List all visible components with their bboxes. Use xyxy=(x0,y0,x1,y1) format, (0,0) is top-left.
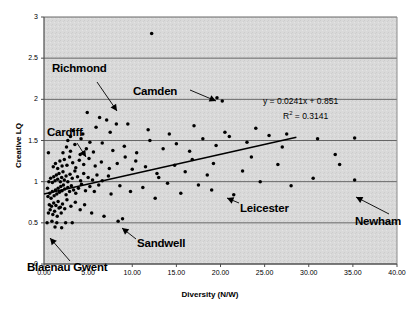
data-point xyxy=(65,145,69,149)
data-point xyxy=(168,132,172,136)
data-point xyxy=(63,207,67,211)
data-point xyxy=(95,173,99,177)
data-point xyxy=(65,163,69,167)
annotation-label-sandwell: Sandwell xyxy=(137,237,185,249)
data-point xyxy=(83,203,87,207)
data-point xyxy=(48,208,52,212)
x-tick-label-25.00: 25.00 xyxy=(249,269,281,276)
x-tick-label-20.00: 20.00 xyxy=(205,269,237,276)
data-point xyxy=(215,96,219,100)
data-point xyxy=(62,183,66,187)
data-point xyxy=(232,193,236,197)
y-tick-label-1: 1 xyxy=(0,178,38,185)
data-point xyxy=(70,221,74,225)
data-point xyxy=(78,159,82,163)
data-point xyxy=(56,200,60,204)
data-point xyxy=(100,160,104,164)
data-point xyxy=(70,177,74,181)
data-point xyxy=(201,137,205,141)
data-point xyxy=(316,137,320,141)
data-point xyxy=(135,151,139,155)
data-point xyxy=(49,177,53,181)
data-point xyxy=(61,202,65,206)
data-point xyxy=(82,172,86,176)
annotation-label-richmond: Richmond xyxy=(52,62,107,74)
data-point xyxy=(245,140,249,144)
data-point xyxy=(206,173,210,177)
data-point xyxy=(166,182,170,186)
data-point xyxy=(53,210,57,214)
x-tick-label-30.00: 30.00 xyxy=(293,269,325,276)
trendline-r-squared: R2 = 0.3141 xyxy=(283,110,328,121)
data-point xyxy=(79,179,83,183)
data-point xyxy=(63,178,67,182)
annotation-label-newham: Newham xyxy=(355,215,401,227)
data-point xyxy=(49,196,53,200)
data-point xyxy=(73,143,77,147)
data-point xyxy=(69,149,73,153)
data-point xyxy=(105,118,109,122)
x-tick-label-15.00: 15.00 xyxy=(160,269,192,276)
data-point xyxy=(59,180,63,184)
data-point xyxy=(52,165,56,169)
data-point xyxy=(56,167,60,171)
data-point xyxy=(161,147,165,151)
data-point xyxy=(102,215,106,219)
data-point xyxy=(91,178,95,182)
data-point xyxy=(175,142,179,146)
data-point xyxy=(108,131,112,135)
data-point xyxy=(74,201,78,205)
data-point xyxy=(116,162,120,166)
data-point xyxy=(82,163,86,167)
data-point xyxy=(85,111,89,115)
data-point xyxy=(126,122,130,126)
data-point xyxy=(59,205,63,209)
data-point xyxy=(68,155,72,159)
data-point xyxy=(223,131,227,135)
data-point xyxy=(153,196,157,200)
data-point xyxy=(157,176,161,180)
data-point xyxy=(55,221,59,225)
data-point xyxy=(111,149,115,153)
data-point xyxy=(311,177,315,181)
data-point xyxy=(121,217,125,221)
trendline-equation: y = 0.0241x + 0.851 xyxy=(263,96,338,106)
data-point xyxy=(353,136,357,140)
data-point xyxy=(68,173,72,177)
data-point xyxy=(50,205,54,209)
data-point xyxy=(353,178,357,182)
data-point xyxy=(71,161,75,165)
data-point xyxy=(267,134,271,138)
data-point xyxy=(64,174,68,178)
data-point xyxy=(64,221,68,225)
data-point xyxy=(50,219,54,223)
data-point xyxy=(107,174,111,178)
data-point xyxy=(74,191,78,195)
data-point xyxy=(214,144,218,148)
data-point xyxy=(88,140,92,144)
x-tick-label-40.00: 40.00 xyxy=(381,269,413,276)
data-point xyxy=(66,139,70,143)
annotation-label-cardiff: Cardiff xyxy=(47,126,83,138)
data-point xyxy=(333,153,337,157)
data-point xyxy=(72,188,76,192)
data-point xyxy=(73,169,77,173)
y-tick-label-2.5: 2.5 xyxy=(0,54,38,61)
data-point xyxy=(129,190,133,194)
y-tick-label-0.5: 0.5 xyxy=(0,219,38,226)
data-point xyxy=(54,204,58,208)
data-point xyxy=(141,186,145,190)
data-point xyxy=(66,180,70,184)
data-point xyxy=(115,122,119,126)
data-point xyxy=(254,126,257,130)
data-point xyxy=(55,215,59,219)
data-point xyxy=(88,185,92,189)
data-point xyxy=(46,187,50,191)
data-point xyxy=(148,139,152,143)
data-point xyxy=(61,151,65,155)
data-point xyxy=(93,164,97,168)
data-point xyxy=(123,145,127,149)
data-point xyxy=(56,177,60,181)
data-point xyxy=(61,170,65,174)
x-tick-label-10.00: 10.00 xyxy=(116,269,148,276)
